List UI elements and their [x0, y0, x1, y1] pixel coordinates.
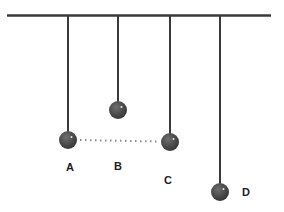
pendulum-bob-a [59, 131, 77, 149]
pendulum-bob-highlight-c [173, 138, 175, 140]
pendulum-bob-highlight-a [71, 136, 73, 138]
pendulum-bob-c [161, 133, 179, 151]
pendulum-label-a: A [66, 161, 74, 173]
pendulum-bob-highlight-b [121, 106, 123, 108]
dotted-reference-line [80, 140, 159, 142]
pendulum-bob-b [109, 101, 127, 119]
pendulum-diagram-canvas: ABCD [0, 0, 284, 212]
pendulum-bob-highlight-d [223, 188, 225, 190]
pendulum-label-b: B [114, 160, 122, 172]
pendulum-diagram: ABCD [0, 0, 284, 212]
pendulum-label-d: D [242, 186, 250, 198]
pendulum-label-c: C [164, 174, 172, 186]
pendulum-strings-layer [68, 16, 220, 192]
pendulum-bob-d [211, 183, 229, 201]
dotted-reference-line-layer [80, 140, 159, 142]
pendulum-bobs-layer [59, 101, 229, 201]
